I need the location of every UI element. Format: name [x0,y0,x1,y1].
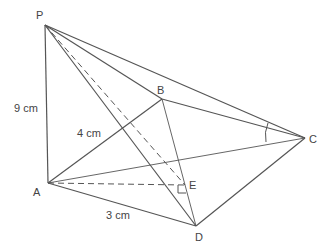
edge-BC [162,99,305,138]
label-P: P [36,9,43,21]
edge-PC [45,25,305,138]
edge-PB [45,25,162,99]
label-B: B [157,84,164,96]
right-angle-marker-E [178,185,186,193]
line-AC [48,138,305,183]
label-A: A [33,186,41,198]
label-E: E [189,179,196,191]
angle-arc-C [265,123,268,142]
label-D: D [195,231,203,243]
measure-AD: 3 cm [106,209,130,221]
label-C: C [309,133,317,145]
measure-PA: 9 cm [14,102,38,114]
measure-AB: 4 cm [77,127,101,139]
edge-CD [196,138,305,226]
pyramid-diagram: P B C A D E 9 cm 4 cm 3 cm [0,0,327,245]
edge-PD [45,25,196,226]
edge-AB [48,99,162,183]
edge-PA [45,25,48,183]
